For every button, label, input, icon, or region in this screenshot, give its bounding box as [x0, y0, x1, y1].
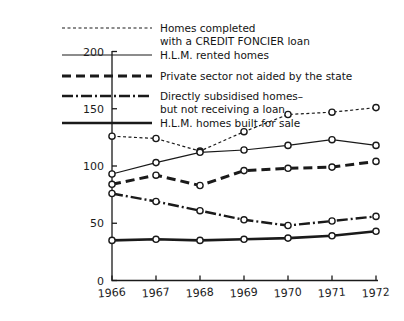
data-point-marker: [241, 129, 247, 135]
legend-entry-5: H.L.M. homes built for sale: [62, 117, 300, 129]
data-point-marker: [373, 142, 379, 148]
chart-canvas: 0501001502001966196719681969197019711972…: [0, 0, 404, 321]
data-point-marker: [285, 235, 291, 241]
series-5: [109, 228, 379, 243]
data-point-marker: [153, 198, 159, 204]
x-tick-label: 1971: [317, 286, 346, 301]
data-point-marker: [285, 165, 291, 171]
data-point-marker: [241, 217, 247, 223]
data-point-marker: [197, 237, 203, 243]
y-tick-label: 0: [97, 275, 104, 288]
data-point-marker: [197, 182, 203, 188]
x-tick-label: 1969: [229, 286, 258, 301]
data-point-marker: [373, 213, 379, 219]
data-point-marker: [241, 168, 247, 174]
data-point-marker: [241, 147, 247, 153]
legend-entry-1: Homes completedwith a CREDIT FONCIER loa…: [62, 22, 310, 47]
y-tick-label: 100: [83, 160, 104, 173]
data-point-marker: [329, 218, 335, 224]
legend-label: H.L.M. rented homes: [160, 49, 269, 61]
y-tick-label: 50: [90, 217, 104, 230]
data-point-marker: [329, 109, 335, 115]
data-point-marker: [373, 105, 379, 111]
data-point-marker: [153, 160, 159, 166]
data-point-marker: [329, 233, 335, 239]
x-tick-label: 1968: [185, 286, 214, 301]
data-point-marker: [373, 228, 379, 234]
data-point-marker: [373, 158, 379, 164]
data-point-marker: [285, 142, 291, 148]
data-point-marker: [109, 133, 115, 139]
x-tick-label: 1972: [361, 286, 390, 301]
data-point-marker: [197, 149, 203, 155]
data-point-marker: [153, 236, 159, 242]
x-tick-label: 1970: [273, 286, 302, 301]
series-4: [109, 190, 379, 228]
legend-entry-3: Private sector not aided by the state: [62, 70, 352, 82]
data-point-marker: [109, 171, 115, 177]
legend-label: Homes completed: [160, 22, 256, 34]
data-point-marker: [329, 137, 335, 143]
data-point-marker: [153, 172, 159, 178]
y-tick-label: 200: [83, 46, 104, 59]
data-point-marker: [109, 181, 115, 187]
data-point-marker: [109, 190, 115, 196]
x-axis-ticks: 1966196719681969197019711972: [97, 276, 390, 301]
legend-label: Private sector not aided by the state: [160, 70, 352, 82]
legend-label: Directly subsidised homes–: [160, 90, 303, 102]
data-point-marker: [197, 208, 203, 214]
data-point-marker: [153, 135, 159, 141]
legend-label: with a CREDIT FONCIER loan: [160, 35, 310, 47]
data-point-marker: [109, 237, 115, 243]
series-3: [109, 158, 379, 188]
data-point-marker: [329, 164, 335, 170]
legend-label: H.L.M. homes built for sale: [160, 117, 300, 129]
x-tick-label: 1966: [97, 286, 126, 301]
line-chart-figure: 0501001502001966196719681969197019711972…: [0, 0, 404, 321]
y-tick-label: 150: [83, 103, 104, 116]
data-point-marker: [285, 222, 291, 228]
x-tick-label: 1967: [141, 286, 170, 301]
legend-label: but not receiving a loan: [160, 103, 285, 115]
data-point-marker: [241, 236, 247, 242]
